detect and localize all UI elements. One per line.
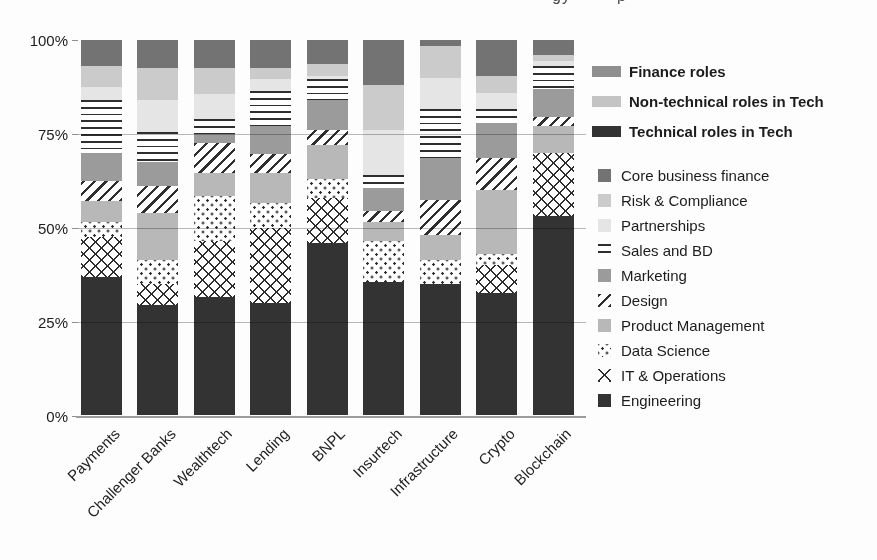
- legend-swatch: [598, 219, 611, 232]
- bar-segment: [476, 190, 517, 254]
- bar-segment: [250, 303, 291, 416]
- bar-segment: [250, 79, 291, 90]
- bar-segment: [250, 228, 291, 303]
- legend-swatch: [592, 66, 621, 77]
- gridline-50: [78, 228, 586, 229]
- bar-segment: [250, 154, 291, 173]
- legend-swatch: [598, 319, 611, 332]
- bar-segment: [194, 173, 235, 196]
- legend-series-label: Design: [621, 292, 668, 309]
- bar-segment: [81, 153, 122, 181]
- bar-segment: [363, 175, 404, 188]
- bar-segment: [533, 153, 574, 217]
- x-axis-line: [76, 416, 586, 418]
- legend-series-label: Marketing: [621, 267, 687, 284]
- bar-segment: [420, 158, 461, 199]
- bar-segment: [250, 203, 291, 227]
- legend-series-item: Marketing: [592, 263, 872, 288]
- bar-segment: [137, 100, 178, 132]
- bar-segment: [363, 188, 404, 211]
- bar-segment: [81, 201, 122, 222]
- y-axis-label: 25%: [8, 314, 68, 331]
- legend-swatch: [598, 169, 611, 182]
- bar-segment: [533, 40, 574, 55]
- legend-group-item: Non-technical roles in Tech: [592, 86, 872, 116]
- bar-segment: [137, 68, 178, 100]
- bar-segment: [250, 173, 291, 203]
- bar-segment: [363, 241, 404, 282]
- bar-segment: [533, 117, 574, 126]
- bar-segment: [81, 66, 122, 87]
- legend-swatch: [598, 294, 611, 307]
- legend-series-label: IT & Operations: [621, 367, 726, 384]
- y-axis-label: 100%: [8, 32, 68, 49]
- bar-segment: [194, 241, 235, 297]
- bar-segment: [137, 284, 178, 305]
- bar-segment: [476, 123, 517, 159]
- legend-swatch: [598, 194, 611, 207]
- legend-swatch: [598, 344, 611, 357]
- legend-swatch: [592, 96, 621, 107]
- bar-segment: [363, 85, 404, 130]
- y-axis-label: 0%: [8, 408, 68, 425]
- legend-series-list: Core business financeRisk & CompliancePa…: [592, 163, 872, 413]
- bar-segment: [307, 100, 348, 130]
- bar-segment: [533, 126, 574, 152]
- bar-segment: [533, 89, 574, 117]
- bar-segment: [476, 293, 517, 415]
- y-axis-label: 50%: [8, 220, 68, 237]
- chart-canvas: gy p 0%25%50%75%100%PaymentsChallenger B…: [0, 0, 877, 560]
- legend-group-label: Technical roles in Tech: [629, 123, 793, 140]
- bar-segment: [307, 198, 348, 243]
- bar-segment: [307, 130, 348, 145]
- bar-segment: [476, 158, 517, 190]
- legend-group-label: Finance roles: [629, 63, 726, 80]
- bar-segment: [476, 265, 517, 293]
- bar-segment: [81, 222, 122, 237]
- bar-segment: [137, 40, 178, 68]
- legend-swatch: [598, 394, 611, 407]
- bar-segment: [81, 87, 122, 100]
- bar-segment: [476, 109, 517, 122]
- bar-segment: [476, 76, 517, 93]
- gridline-25: [78, 322, 586, 323]
- bar-segment: [137, 260, 178, 284]
- bar-segment: [420, 260, 461, 284]
- bar-segment: [420, 46, 461, 78]
- legend-series-item: Risk & Compliance: [592, 188, 872, 213]
- bar-segment: [307, 145, 348, 179]
- bar-segment: [363, 222, 404, 241]
- bar-segment: [420, 200, 461, 236]
- bar-segment: [194, 68, 235, 94]
- bar-segment: [81, 100, 122, 153]
- bar-segment: [81, 277, 122, 416]
- bar-segment: [194, 40, 235, 68]
- bar-segment: [363, 130, 404, 175]
- legend-group-item: Finance roles: [592, 56, 872, 86]
- legend-series-label: Core business finance: [621, 167, 769, 184]
- bar-segment: [420, 284, 461, 415]
- legend-swatch: [598, 244, 611, 257]
- bar-segment: [250, 40, 291, 68]
- bar-segment: [476, 93, 517, 110]
- legend-group-label: Non-technical roles in Tech: [629, 93, 824, 110]
- legend-series-label: Engineering: [621, 392, 701, 409]
- legend-swatch: [598, 369, 611, 382]
- bar-segment: [194, 143, 235, 173]
- bar-segment: [307, 243, 348, 416]
- bar-segment: [363, 282, 404, 415]
- bar-segment: [81, 40, 122, 66]
- bar-segment: [194, 196, 235, 241]
- legend-series-item: IT & Operations: [592, 363, 872, 388]
- legend-series-item: Partnerships: [592, 213, 872, 238]
- bar-segment: [533, 216, 574, 415]
- legend-series-item: Engineering: [592, 388, 872, 413]
- bar-segment: [194, 119, 235, 134]
- legend-series-item: Sales and BD: [592, 238, 872, 263]
- y-axis-label: 75%: [8, 126, 68, 143]
- legend-swatch: [592, 126, 621, 137]
- legend-group-list: Finance rolesNon-technical roles in Tech…: [592, 56, 872, 146]
- legend-series-label: Product Management: [621, 317, 764, 334]
- bar-segment: [307, 79, 348, 100]
- bar-segment: [307, 40, 348, 64]
